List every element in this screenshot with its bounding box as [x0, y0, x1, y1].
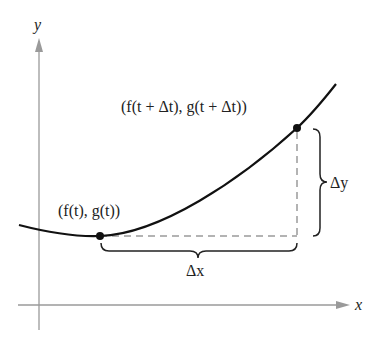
x-axis-label: x	[354, 296, 362, 313]
x-axis-arrow-icon	[336, 301, 350, 309]
delta-y-label: Δy	[330, 174, 348, 192]
delta-y-brace	[313, 129, 327, 236]
point-t-plus-dt	[293, 124, 301, 132]
parametric-derivative-diagram: y x (f(t), g(t)) (f(t + Δt), g(t + Δt)) …	[0, 0, 374, 349]
delta-triangle-dashes	[100, 132, 297, 236]
y-axis	[35, 38, 43, 330]
x-axis	[18, 301, 350, 309]
y-axis-label: y	[32, 16, 42, 34]
point-t-label: (f(t), g(t))	[58, 202, 120, 220]
delta-x-brace	[101, 243, 297, 258]
y-axis-arrow-icon	[35, 38, 43, 52]
point-t-plus-dt-label: (f(t + Δt), g(t + Δt))	[121, 98, 247, 116]
point-t	[96, 232, 104, 240]
delta-x-label: Δx	[186, 262, 204, 279]
